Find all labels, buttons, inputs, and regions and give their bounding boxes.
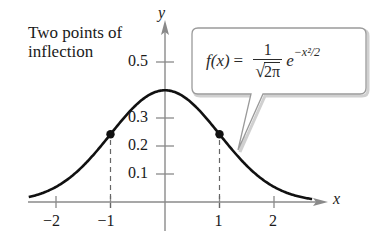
- formula-denominator: √2π: [253, 59, 282, 82]
- y-axis-label: y: [158, 4, 165, 22]
- formula-equals: =: [234, 51, 244, 71]
- normal-curve: [29, 90, 312, 199]
- x-tick-label: 2: [269, 212, 277, 230]
- y-tick-label: 0.5: [128, 52, 148, 70]
- annotation-line-2: inflection: [28, 42, 122, 61]
- formula-fraction: 1 √2π: [253, 41, 282, 82]
- formula-numerator: 1: [262, 41, 274, 59]
- x-tick-label: −2: [43, 212, 60, 230]
- formula-arg: (x): [211, 51, 230, 71]
- annotation-text: Two points of inflection: [28, 23, 122, 61]
- annotation-line-1: Two points of: [28, 23, 122, 42]
- inflection-point: [106, 130, 114, 138]
- x-tick-label: −1: [98, 212, 115, 230]
- inflection-point: [215, 130, 223, 138]
- x-tick-label: 1: [215, 212, 223, 230]
- formula-base: e: [286, 51, 294, 71]
- formula-exponent: −x²/2: [294, 45, 320, 60]
- y-tick-label: 0.1: [128, 164, 148, 182]
- formula-radicand: 2π: [264, 62, 280, 80]
- formula: f(x) = 1 √2π e−x²/2: [206, 36, 320, 86]
- x-axis-label: x: [333, 190, 340, 208]
- y-tick-label: 0.3: [128, 108, 148, 126]
- y-tick-label: 0.2: [128, 136, 148, 154]
